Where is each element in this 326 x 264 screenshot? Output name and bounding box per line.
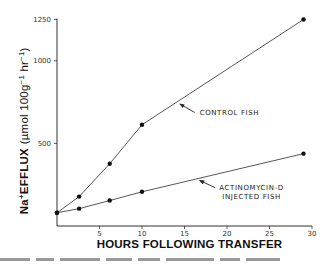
y-title-unit-close: ) bbox=[18, 47, 30, 51]
annotation-label-line1: ACTINOMYCIN-D bbox=[219, 184, 283, 192]
annotation-actinomycin: ACTINOMYCIN-D INJECTED FISH bbox=[199, 180, 284, 201]
data-point bbox=[301, 17, 305, 21]
x-tick-label: 5 bbox=[97, 230, 101, 238]
y-title-unit-mid: hr bbox=[18, 61, 30, 75]
x-tick-label: 20 bbox=[223, 230, 232, 238]
x-tick-label: 30 bbox=[308, 230, 317, 238]
y-title-rest: EFFLUX bbox=[18, 148, 30, 194]
data-point bbox=[108, 162, 112, 166]
x-tick-label: 15 bbox=[180, 230, 189, 238]
y-title-unit-sup2: −1 bbox=[17, 51, 26, 61]
y-title-unit: (µmol 100g bbox=[18, 84, 30, 144]
caption-fragment bbox=[60, 258, 100, 261]
data-point bbox=[140, 123, 144, 127]
arrowhead-icon bbox=[179, 103, 185, 108]
caption-fragment bbox=[0, 258, 30, 261]
y-axis-title: Na+EFFLUX(µmol 100g−1 hr−1) bbox=[17, 47, 30, 214]
data-point bbox=[77, 206, 81, 210]
data-point bbox=[108, 198, 112, 202]
data-point bbox=[140, 190, 144, 194]
caption-fragment bbox=[220, 258, 240, 261]
annotation-label: CONTROL FISH bbox=[200, 109, 259, 117]
y-tick-label: 1000 bbox=[33, 57, 51, 65]
cut-off-caption bbox=[0, 258, 326, 264]
data-point bbox=[77, 194, 81, 198]
y-title-base: Na bbox=[18, 199, 30, 215]
y-title-unit-sup: −1 bbox=[17, 75, 26, 85]
annotation-control-fish: CONTROL FISH bbox=[179, 103, 259, 117]
y-ticks: 50010001250 bbox=[33, 16, 57, 148]
x-tick-label: 10 bbox=[138, 230, 147, 238]
annotation-label-line2: INJECTED FISH bbox=[222, 193, 281, 201]
x-axis-title: HOURS FOLLOWING TRANSFER bbox=[97, 238, 283, 250]
y-tick-label: 1250 bbox=[33, 16, 51, 24]
caption-fragment bbox=[166, 258, 214, 261]
caption-fragment bbox=[106, 258, 132, 261]
y-tick-label: 500 bbox=[38, 140, 51, 148]
x-ticks: 51015202530 bbox=[97, 226, 316, 238]
arrowhead-icon bbox=[199, 180, 205, 184]
caption-fragment bbox=[138, 258, 160, 261]
caption-fragment bbox=[246, 258, 280, 261]
data-point bbox=[55, 211, 59, 215]
caption-fragment bbox=[36, 258, 54, 261]
line-chart: 50010001250 51015202530 CONTROL FISH ACT… bbox=[0, 0, 326, 264]
x-tick-label: 25 bbox=[265, 230, 274, 238]
data-point bbox=[301, 151, 305, 155]
